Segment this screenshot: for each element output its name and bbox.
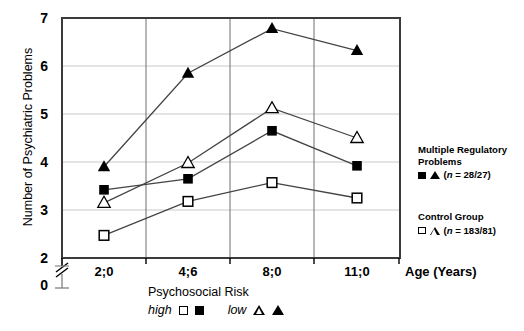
y-axis-break xyxy=(55,258,69,288)
open-square-icon xyxy=(179,306,188,315)
x-tick-8-0: 8;0 xyxy=(242,264,302,279)
legend-group-multiple-regulatory: Multiple Regulatory Problems (n = 28/27) xyxy=(418,144,507,181)
filled-square-icon xyxy=(418,172,426,180)
legend-control-n: (n = 183/81) xyxy=(444,225,497,237)
legend-mrp-n: (n = 28/27) xyxy=(444,169,491,181)
x-tick-11-0: 11;0 xyxy=(327,264,387,279)
legend-mrp-markers-row: (n = 28/27) xyxy=(418,169,507,181)
x-axis-title: Age (Years) xyxy=(405,264,477,279)
filled-triangle-icon xyxy=(430,171,440,179)
legend-control-line1: Control Group xyxy=(418,211,496,223)
legend-group-control: Control Group (n = 183/81) xyxy=(418,211,496,236)
legend-mrp-line1: Multiple Regulatory xyxy=(418,144,507,156)
filled-square-icon xyxy=(195,306,204,315)
psychosocial-risk-title: Psychosocial Risk xyxy=(148,285,249,299)
x-tick-2-0: 2;0 xyxy=(74,264,134,279)
risk-marker-legend: high low xyxy=(148,303,284,317)
legend-mrp-line2: Problems xyxy=(418,156,507,168)
plot-frame xyxy=(62,18,400,258)
filled-triangle-icon xyxy=(272,305,284,315)
open-triangle-icon xyxy=(253,305,265,315)
chart-figure: Number of Psychiatric Problems 7 6 5 4 3… xyxy=(0,0,524,331)
open-square-icon xyxy=(418,227,426,235)
x-tick-4-6: 4;6 xyxy=(158,264,218,279)
risk-low-label: low xyxy=(228,303,247,317)
open-triangle-icon xyxy=(430,227,440,235)
legend-control-markers-row: (n = 183/81) xyxy=(418,225,496,237)
risk-high-label: high xyxy=(148,303,172,317)
